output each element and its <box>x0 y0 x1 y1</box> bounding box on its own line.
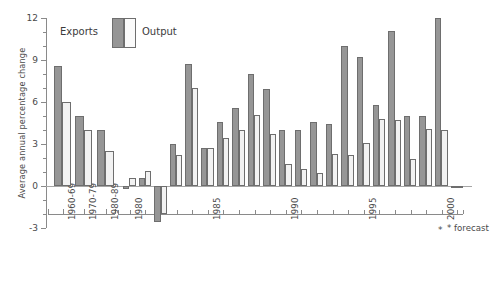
x-axis-endcap <box>463 210 464 214</box>
bar-exports-1998 <box>404 116 410 186</box>
y-tick-label: 0 <box>32 182 38 191</box>
bar-exports-1992 <box>310 122 316 186</box>
bar-output-1982 <box>161 186 167 214</box>
x-tick <box>317 210 318 214</box>
bar-exports-1982 <box>154 186 160 222</box>
y-tick-major <box>41 18 46 19</box>
bar-exports-1994 <box>341 46 347 186</box>
y-tick-minor <box>43 158 46 159</box>
bar-output-1987 <box>239 130 245 186</box>
y-axis-spine <box>46 18 47 228</box>
y-tick-minor <box>43 116 46 117</box>
x-tick <box>333 210 334 214</box>
bar-exports-1987 <box>232 108 238 186</box>
bar-output-1981 <box>145 171 151 186</box>
y-tick-minor <box>43 88 46 89</box>
y-tick-major <box>41 144 46 145</box>
bar-output-1984 <box>192 88 198 186</box>
y-tick-label: 3 <box>32 140 38 149</box>
x-tick <box>106 209 107 214</box>
x-tick <box>426 210 427 214</box>
x-tick <box>364 210 365 214</box>
bar-exports-1983 <box>170 144 176 186</box>
y-tick-minor <box>43 74 46 75</box>
y-tick-label: 12 <box>27 14 38 23</box>
bar-output-1995 <box>363 143 369 186</box>
x-tick <box>63 209 64 214</box>
x-tick <box>457 210 458 214</box>
x-tick <box>192 210 193 214</box>
y-tick-minor <box>43 214 46 215</box>
legend-swatch <box>112 18 136 48</box>
bar-exports-1997 <box>388 31 394 186</box>
bar-exports-1990 <box>279 130 285 186</box>
x-tick <box>348 210 349 214</box>
bar-exports-1989 <box>263 89 269 186</box>
legend-swatch-exports <box>112 18 124 48</box>
legend-swatch-output <box>124 18 136 48</box>
legend-label-exports: Exports <box>60 26 98 37</box>
bar-exports-1988 <box>248 74 254 186</box>
bar-exports-1999 <box>419 116 425 186</box>
x-tick <box>130 210 131 214</box>
x-tick-label-1960-69: 1960-69 <box>67 183 77 220</box>
x-tick <box>145 210 146 214</box>
bar-exports-1984 <box>185 64 191 186</box>
x-tick-label-1995: 1995 <box>368 197 378 220</box>
x-tick <box>411 210 412 214</box>
x-tick <box>442 210 443 214</box>
y-axis-title: Average annual percentage change <box>17 33 27 213</box>
bar-output-1970-79 <box>84 130 93 186</box>
bar-output-1996 <box>379 119 385 186</box>
x-axis-segment <box>48 214 115 215</box>
y-tick-minor <box>43 130 46 131</box>
y-tick-label: -3 <box>29 224 38 233</box>
x-tick-label-1970-79: 1970-79 <box>88 183 98 220</box>
x-tick <box>223 210 224 214</box>
y-tick-minor <box>43 172 46 173</box>
bar-exports-1980 <box>123 186 129 189</box>
bar-exports-1991 <box>295 130 301 186</box>
bar-output-1983 <box>176 155 182 186</box>
chart-root: Average annual percentage change -303691… <box>0 0 502 288</box>
bar-output-1997 <box>395 120 401 186</box>
bar-exports-1993 <box>326 124 332 186</box>
x-tick-label-1990: 1990 <box>290 197 300 220</box>
bar-exports-1980-89 <box>97 130 106 186</box>
bar-output-1994 <box>348 155 354 186</box>
x-tick-label-1980-89: 1980-89 <box>110 183 120 220</box>
y-tick-label: 6 <box>32 98 38 107</box>
bar-exports-2001 <box>451 186 457 188</box>
bar-output-1989 <box>270 134 276 186</box>
x-axis-endcap <box>48 209 49 214</box>
bar-output-1992 <box>317 173 323 186</box>
y-tick-major <box>41 102 46 103</box>
x-tick <box>255 210 256 214</box>
x-tick <box>379 210 380 214</box>
forecast-marker-icon: * <box>438 226 443 235</box>
bar-output-1980-89 <box>105 151 114 186</box>
bar-output-1998 <box>410 159 416 186</box>
bar-output-1960-69 <box>62 102 71 186</box>
bar-output-1986 <box>223 138 229 186</box>
bar-exports-2000 <box>435 18 441 186</box>
x-tick <box>286 210 287 214</box>
bar-exports-1995 <box>357 57 363 186</box>
bar-output-1980 <box>129 178 135 186</box>
bar-output-1999 <box>426 129 432 186</box>
x-tick <box>208 210 209 214</box>
bar-output-1993 <box>332 154 338 186</box>
y-tick-label: 9 <box>32 56 38 65</box>
y-tick-minor <box>43 200 46 201</box>
x-tick-label-1980: 1980 <box>134 197 144 220</box>
bar-output-2000 <box>441 130 447 186</box>
bar-output-1991 <box>301 169 307 186</box>
bar-exports-1985 <box>201 148 207 186</box>
bar-output-2001 <box>457 186 463 188</box>
bar-exports-1981 <box>139 178 145 186</box>
x-tick <box>301 210 302 214</box>
x-tick-label-1985: 1985 <box>212 197 222 220</box>
bar-output-1990 <box>285 164 291 186</box>
x-tick-label-2000: 2000 <box>446 197 456 220</box>
forecast-note: * forecast <box>447 223 489 233</box>
